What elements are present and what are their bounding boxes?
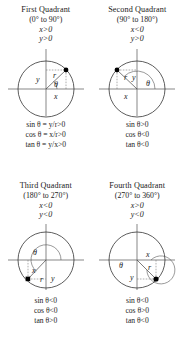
diagram-label-theta-second: θ [146, 79, 150, 88]
formula-cos-fourth: cos θ>0 [125, 306, 149, 316]
quadrant-cond-y-fourth: y<0 [131, 210, 144, 219]
quadrant-panel-second: Second Quadrant (90° to 180°) x<0 y>0 r … [92, 0, 184, 176]
formula-cos-first: cos θ = x/r>0 [25, 130, 66, 140]
diagram-label-x-second: x [123, 92, 128, 101]
diagram-label-r-fourth: r [148, 263, 152, 272]
quadrant-panel-third: Third Quadrant (180° to 270°) x<0 y<0 θ … [0, 176, 92, 352]
formula-list-fourth: sin θ<0 cos θ>0 tan θ<0 [125, 296, 149, 325]
quadrant-title-second: Second Quadrant [108, 5, 166, 15]
diagram-label-y-first: y [35, 75, 40, 84]
quadrant-diagram-first: y r θ x [2, 44, 90, 118]
formula-list-first: sin θ = y/r>0 cos θ = x/r>0 tan θ = y/x>… [25, 120, 66, 149]
diagram-label-x-third: x [31, 266, 36, 275]
diagram-label-r-second: r [124, 73, 128, 82]
formula-tan-third: tan θ>0 [34, 316, 58, 326]
trig-quadrants-figure: First Quadrant (0° to 90°) x>0 y>0 y r θ… [0, 0, 183, 352]
quadrant-diagram-third: θ x r y [2, 220, 90, 294]
quadrant-cond-y-third: y<0 [39, 210, 52, 219]
quadrant-cond-x-first: x>0 [39, 25, 52, 34]
quadrant-title-third: Third Quadrant [20, 181, 72, 191]
quadrant-range-third: (180° to 270°) [23, 191, 68, 201]
formula-sin-fourth: sin θ<0 [125, 296, 149, 306]
formula-cos-second: cos θ<0 [125, 130, 149, 140]
quadrant-panel-fourth: Fourth Quadrant (270° to 360°) x>0 y<0 x… [92, 176, 184, 352]
quadrant-title-first: First Quadrant [21, 5, 70, 15]
formula-cos-third: cos θ<0 [34, 306, 58, 316]
diagram-label-r-third: r [40, 275, 44, 284]
quadrant-grid: First Quadrant (0° to 90°) x>0 y>0 y r θ… [0, 0, 183, 352]
formula-sin-first: sin θ = y/r>0 [25, 120, 66, 130]
quadrant-panel-first: First Quadrant (0° to 90°) x>0 y>0 y r θ… [0, 0, 92, 176]
diagram-label-theta-first: θ [54, 80, 58, 89]
diagram-label-theta-fourth: θ [119, 261, 123, 270]
quadrant-title-fourth: Fourth Quadrant [109, 181, 165, 191]
diagram-label-x-first: x [53, 92, 58, 101]
diagram-label-x-fourth: x [145, 250, 150, 259]
diagram-label-y-second: y [131, 73, 136, 82]
formula-tan-first: tan θ = y/x>0 [25, 140, 66, 150]
formula-list-second: sin θ>0 cos θ<0 tan θ<0 [125, 120, 149, 149]
diagram-label-y-fourth: y [129, 273, 134, 282]
quadrant-cond-y-second: y>0 [131, 34, 144, 43]
quadrant-diagram-second: r y θ x [93, 44, 181, 118]
formula-tan-fourth: tan θ<0 [125, 316, 149, 326]
formula-list-third: sin θ<0 cos θ<0 tan θ>0 [34, 296, 58, 325]
quadrant-cond-y-first: y>0 [39, 34, 52, 43]
formula-tan-second: tan θ<0 [125, 140, 149, 150]
quadrant-diagram-fourth: x θ r y [93, 220, 181, 294]
diagram-label-y-third: y [50, 274, 55, 283]
quadrant-range-first: (0° to 90°) [29, 15, 62, 25]
quadrant-range-fourth: (270° to 360°) [115, 191, 160, 201]
quadrant-cond-x-third: x<0 [39, 201, 52, 210]
formula-sin-second: sin θ>0 [125, 120, 149, 130]
quadrant-cond-x-second: x<0 [131, 25, 144, 34]
formula-sin-third: sin θ<0 [34, 296, 58, 306]
quadrant-range-second: (90° to 180°) [117, 15, 158, 25]
diagram-label-theta-third: θ [33, 248, 37, 257]
quadrant-cond-x-fourth: x>0 [131, 201, 144, 210]
